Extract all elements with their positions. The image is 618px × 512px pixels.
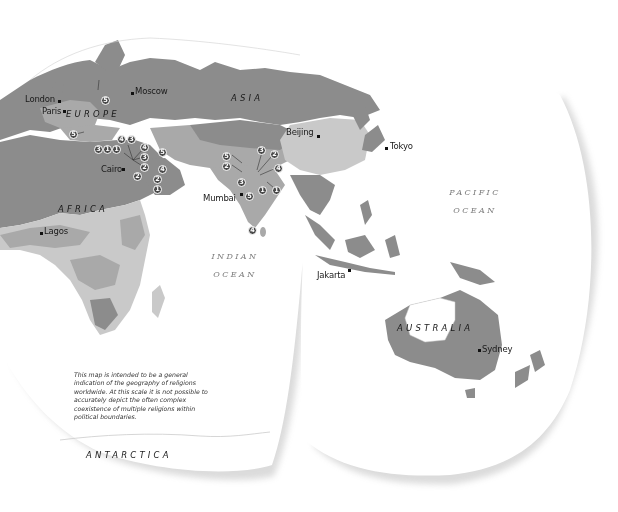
region-label-africa: AFRICA xyxy=(58,204,108,214)
religion-marker: 5 xyxy=(222,152,231,161)
religion-marker: 2 xyxy=(133,172,142,181)
city-label-tokyo: Tokyo xyxy=(390,141,413,151)
religion-marker: 2 xyxy=(222,162,231,171)
religion-marker: 5 xyxy=(101,96,110,105)
ocean-label-pacific-line1: PACIFIC xyxy=(440,188,510,197)
city-label-sydney: Sydney xyxy=(482,344,512,354)
religion-marker: 1 xyxy=(103,145,112,154)
region-label-europe: EUROPE xyxy=(66,109,120,119)
religion-marker: 1 xyxy=(153,185,162,194)
religion-marker: 1 xyxy=(112,145,121,154)
city-marker-lagos xyxy=(40,232,43,235)
religion-marker: 3 xyxy=(237,178,246,187)
city-marker-cairo xyxy=(122,168,125,171)
ocean-label-pacific-line2: OCEAN xyxy=(440,206,510,215)
city-label-jakarta: Jakarta xyxy=(317,270,345,280)
religion-marker: 3 xyxy=(94,145,103,154)
city-marker-beijing xyxy=(317,135,320,138)
religion-marker: 4 xyxy=(274,164,283,173)
ocean-label-pacific: PACIFIC OCEAN xyxy=(440,188,510,215)
ocean-label-indian-line1: INDIAN xyxy=(190,252,280,261)
city-label-lagos: Lagos xyxy=(44,226,68,236)
religion-marker: 2 xyxy=(270,150,279,159)
religion-marker: 2 xyxy=(140,163,149,172)
region-label-asia: ASIA xyxy=(231,93,263,103)
religion-marker: 5 xyxy=(69,130,78,139)
city-marker-london xyxy=(58,100,61,103)
religion-marker: 3 xyxy=(257,146,266,155)
city-label-mumbai: Mumbai xyxy=(203,193,236,203)
ocean-label-indian: INDIAN OCEAN xyxy=(190,252,280,279)
religion-marker: 3 xyxy=(140,153,149,162)
city-label-moscow: Moscow xyxy=(135,86,168,96)
city-label-paris: Paris xyxy=(42,106,61,116)
city-marker-mumbai xyxy=(240,193,243,196)
religion-marker: 5 xyxy=(245,192,254,201)
religion-marker: 2 xyxy=(153,175,162,184)
city-marker-jakarta xyxy=(348,269,351,272)
religion-marker: 4 xyxy=(140,143,149,152)
city-marker-moscow xyxy=(131,92,134,95)
religion-marker: 4 xyxy=(158,165,167,174)
region-label-antarctica: ANTARCTICA xyxy=(86,450,172,460)
ocean-label-indian-line2: OCEAN xyxy=(190,270,280,279)
city-label-london: London xyxy=(25,94,55,104)
map-disclaimer-note: This map is intended to be a general ind… xyxy=(74,371,214,421)
city-marker-tokyo xyxy=(385,147,388,150)
city-marker-sydney xyxy=(478,349,481,352)
city-label-beijing: Beijing xyxy=(286,127,314,137)
city-label-cairo: Cairo xyxy=(101,164,122,174)
religion-marker: 3 xyxy=(127,135,136,144)
religion-marker: 4 xyxy=(117,135,126,144)
world-religions-map xyxy=(0,0,618,512)
religion-marker: 5 xyxy=(158,148,167,157)
city-marker-paris xyxy=(63,110,66,113)
religion-marker: 4 xyxy=(248,226,257,235)
religion-marker: 1 xyxy=(258,186,267,195)
region-label-australia: AUSTRALIA xyxy=(397,323,473,333)
religion-marker: 1 xyxy=(272,186,281,195)
